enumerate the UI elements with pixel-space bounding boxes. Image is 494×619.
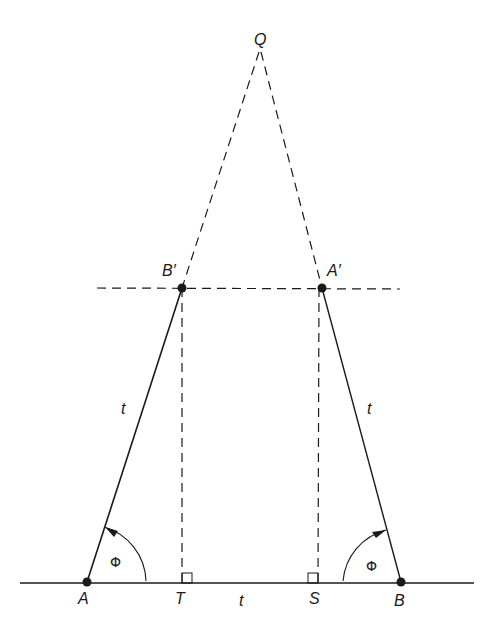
label-phi-left: Φ <box>110 554 121 570</box>
label-s: S <box>309 590 320 607</box>
arrowhead-right <box>372 530 386 538</box>
label-bprime: B′ <box>162 262 177 279</box>
point-a <box>83 578 92 587</box>
arrowhead-left <box>105 527 118 537</box>
label-t-left: t <box>121 400 126 417</box>
label-t-point: T <box>175 590 186 607</box>
dashed-q-bprime <box>182 52 259 288</box>
label-t-right: t <box>367 400 372 417</box>
right-angle-s <box>308 573 318 583</box>
label-b: B <box>394 592 405 609</box>
dashed-q-aprime <box>261 52 322 288</box>
point-b <box>397 578 406 587</box>
dashed-horizontal <box>97 288 400 289</box>
diagram-canvas: Q B′ A′ t t Φ Φ A T t S B <box>0 0 494 619</box>
label-q: Q <box>254 31 266 48</box>
right-angle-t <box>182 573 192 583</box>
segment-a-bprime <box>87 288 182 582</box>
label-a: A <box>77 590 89 607</box>
label-aprime: A′ <box>326 262 342 279</box>
segment-b-aprime <box>322 288 401 582</box>
dashed-aprime-s <box>318 288 319 582</box>
label-t-bottom: t <box>239 592 244 609</box>
point-aprime <box>318 284 327 293</box>
point-bprime <box>178 284 187 293</box>
label-phi-right: Φ <box>366 558 377 574</box>
angle-arc-right <box>343 530 386 581</box>
